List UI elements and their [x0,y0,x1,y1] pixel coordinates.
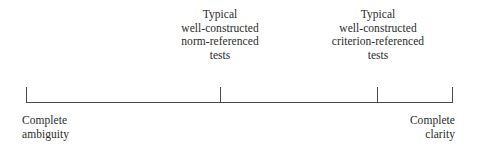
axis-tick-left-endpoint [26,87,27,103]
endpoint-label-left-line-1: Complete [22,113,69,127]
annotation-norm-referenced-line-4: tests [181,49,258,63]
axis-line [26,102,452,103]
axis-tick-right-endpoint [452,87,453,103]
annotation-norm-referenced-line-1: Typical [181,8,258,22]
annotation-criterion-referenced-line-1: Typical [332,8,424,22]
annotation-criterion-referenced-line-2: well-constructed [332,22,424,36]
endpoint-label-right: Complete clarity [410,113,455,141]
annotation-norm-referenced: Typical well-constructed norm-referenced… [181,8,258,62]
endpoint-label-right-line-2: clarity [410,127,455,141]
continuum-figure: Typical well-constructed norm-referenced… [0,0,477,149]
endpoint-label-right-line-1: Complete [410,113,455,127]
axis-tick-criterion-referenced [377,87,378,103]
annotation-criterion-referenced: Typical well-constructed criterion-refer… [332,8,424,62]
endpoint-label-left-line-2: ambiguity [22,127,69,141]
endpoint-label-left: Complete ambiguity [22,113,69,141]
annotation-criterion-referenced-line-3: criterion-referenced [332,35,424,49]
annotation-norm-referenced-line-3: norm-referenced [181,35,258,49]
axis-tick-norm-referenced [220,87,221,103]
annotation-norm-referenced-line-2: well-constructed [181,22,258,36]
annotation-criterion-referenced-line-4: tests [332,49,424,63]
